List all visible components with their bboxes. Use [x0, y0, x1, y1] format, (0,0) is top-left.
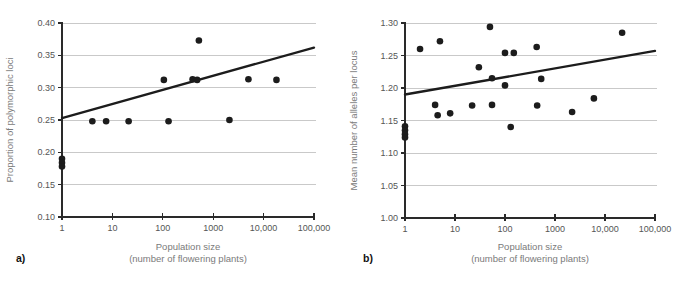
y-tick-label: 0.15: [37, 180, 55, 190]
data-point: [507, 124, 514, 131]
data-point: [502, 50, 509, 57]
y-tick-label: 1.25: [380, 51, 398, 61]
data-point: [417, 46, 424, 53]
data-point: [402, 134, 409, 141]
data-point: [489, 75, 496, 82]
x-axis-title-line2: (number of flowering plants): [471, 253, 589, 264]
data-point: [437, 38, 444, 45]
x-tick-label: 1: [402, 224, 407, 234]
x-tick-label: 100,000: [639, 224, 672, 234]
data-point: [511, 50, 518, 57]
x-tick-label: 10: [107, 223, 117, 233]
x-tick-label: 1000: [545, 224, 565, 234]
data-point: [534, 102, 541, 109]
data-point: [103, 118, 110, 125]
data-point: [487, 24, 494, 31]
data-point: [125, 118, 132, 125]
y-axis-title: Proportion of polymorphic loci: [4, 57, 15, 182]
data-point: [569, 109, 576, 116]
x-tick-label: 10: [450, 224, 460, 234]
y-tick-label: 1.20: [380, 83, 398, 93]
y-tick-label: 1.30: [380, 18, 398, 28]
data-point: [447, 110, 454, 117]
x-tick-label: 100: [155, 223, 170, 233]
y-tick-label: 0.35: [37, 50, 55, 60]
data-point: [434, 112, 441, 119]
x-tick-label: 1: [59, 223, 64, 233]
data-point: [489, 102, 496, 109]
x-axis-title-line1: Population size: [498, 241, 562, 252]
data-point: [476, 64, 483, 71]
two-panel-scatter-figure: 0.100.150.200.250.300.350.40110100100010…: [0, 0, 692, 286]
x-tick-label: 100,000: [298, 223, 331, 233]
y-tick-label: 0.10: [37, 212, 55, 222]
y-tick-label: 0.20: [37, 147, 55, 157]
data-point: [533, 44, 540, 51]
data-point: [469, 102, 476, 109]
x-tick-label: 100: [497, 224, 512, 234]
data-point: [591, 95, 598, 102]
data-point: [432, 102, 439, 109]
data-point: [538, 76, 545, 83]
x-tick-label: 10,000: [591, 224, 619, 234]
y-tick-label: 0.25: [37, 115, 55, 125]
panel-letter: b): [363, 252, 373, 264]
x-tick-label: 1000: [203, 223, 223, 233]
y-tick-label: 1.05: [380, 181, 398, 191]
y-axis-title: Mean number of alleles per locus: [348, 50, 359, 190]
data-point: [59, 163, 66, 170]
data-point: [245, 76, 252, 83]
y-tick-label: 1.10: [380, 148, 398, 158]
chart-panel-a: 0.100.150.200.250.300.350.40110100100010…: [0, 0, 346, 286]
x-axis-title-line2: (number of flowering plants): [129, 253, 247, 264]
data-point: [502, 82, 509, 89]
data-point: [619, 29, 626, 36]
chart-panel-b: 1.001.051.101.151.201.251.30110100100010…: [346, 0, 692, 286]
y-tick-label: 1.15: [380, 116, 398, 126]
y-tick-label: 1.00: [380, 213, 398, 223]
data-point: [161, 77, 168, 84]
data-point: [89, 118, 96, 125]
x-tick-label: 10,000: [250, 223, 278, 233]
y-tick-label: 0.40: [37, 18, 55, 28]
data-point: [165, 118, 172, 125]
data-point: [194, 77, 201, 84]
data-point: [196, 37, 203, 44]
data-point: [226, 117, 233, 124]
x-axis-title-line1: Population size: [156, 241, 220, 252]
panel-letter: a): [16, 252, 25, 264]
y-tick-label: 0.30: [37, 83, 55, 93]
data-point: [273, 77, 280, 84]
